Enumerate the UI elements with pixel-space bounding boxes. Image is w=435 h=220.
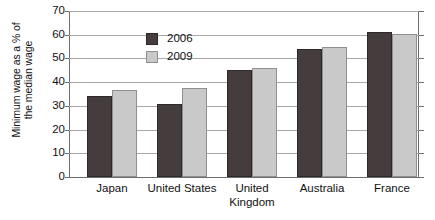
y-tick-label-50: 50 xyxy=(41,52,65,64)
y-tick-mark-70 xyxy=(65,11,69,12)
y-tick-label-0: 0 xyxy=(41,171,65,183)
legend-item-2009: 2009 xyxy=(146,49,220,64)
legend-label-2009: 2009 xyxy=(167,51,193,63)
y-tick-label-10: 10 xyxy=(41,147,65,159)
right-tick-mark-30 xyxy=(419,106,424,107)
y-tick-label-60: 60 xyxy=(41,29,65,41)
y-tick-mark-40 xyxy=(65,82,69,83)
right-tick-mark-20 xyxy=(419,130,424,131)
y-tick-label-40: 40 xyxy=(41,76,65,88)
bar-japan-2006 xyxy=(87,96,112,177)
x-tick-label-france: France xyxy=(349,182,435,196)
right-tick-mark-70 xyxy=(419,11,424,12)
right-tick-mark-0 xyxy=(419,177,424,178)
y-tick-mark-0 xyxy=(65,177,69,178)
legend-item-2006: 2006 xyxy=(146,31,220,46)
y-axis-title-line-2: the median wage xyxy=(22,0,34,165)
bar-australia-2009 xyxy=(322,47,347,177)
bar-united-states-2009 xyxy=(182,88,207,177)
plot-area: 2006 2009 xyxy=(69,11,419,177)
y-tick-label-70: 70 xyxy=(41,5,65,17)
y-axis-tick-labels: 70 60 50 40 30 20 10 0 xyxy=(39,11,65,177)
y-tick-mark-10 xyxy=(65,153,69,154)
right-tick-mark-60 xyxy=(419,35,424,36)
right-tick-mark-10 xyxy=(419,153,424,154)
bar-chart-figure: Minimum wage as a % of the median wage 7… xyxy=(0,0,435,220)
y-tick-mark-50 xyxy=(65,58,69,59)
y-tick-mark-60 xyxy=(65,35,69,36)
y-tick-label-30: 30 xyxy=(41,100,65,112)
x-tick-label-united-kingdom-line-2: Kingdom xyxy=(209,196,295,210)
right-tick-mark-40 xyxy=(419,82,424,83)
bar-france-2006 xyxy=(367,32,392,177)
y-axis-title-line-1: Minimum wage as a % of xyxy=(10,0,22,165)
bar-australia-2006 xyxy=(297,49,322,177)
y-tick-label-20: 20 xyxy=(41,124,65,136)
x-axis-baseline xyxy=(69,177,419,178)
y-tick-mark-20 xyxy=(65,130,69,131)
bar-united-states-2006 xyxy=(157,104,182,178)
bar-japan-2009 xyxy=(112,90,137,177)
right-tick-mark-50 xyxy=(419,58,424,59)
bar-united-kingdom-2006 xyxy=(227,70,252,177)
gridline-70 xyxy=(69,11,419,12)
legend-swatch-icon-2009 xyxy=(146,51,158,63)
legend-swatch-icon-2006 xyxy=(146,33,158,45)
y-tick-mark-30 xyxy=(65,106,69,107)
chart-legend: 2006 2009 xyxy=(146,31,220,67)
legend-label-2006: 2006 xyxy=(167,33,193,45)
x-axis-category-labels: Japan United States United Kingdom Austr… xyxy=(69,182,419,218)
bar-united-kingdom-2009 xyxy=(252,68,277,177)
bar-france-2009 xyxy=(392,34,417,177)
x-tick-label-france-line-1: France xyxy=(349,182,435,196)
